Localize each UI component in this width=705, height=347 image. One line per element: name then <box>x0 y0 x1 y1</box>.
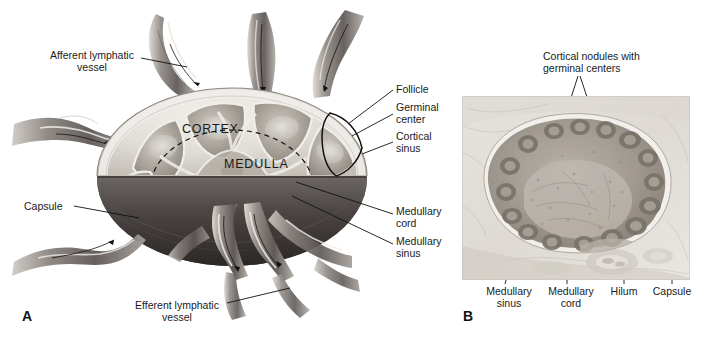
micrograph-image <box>462 96 690 280</box>
efferent-vessel-left <box>12 234 146 276</box>
panel-b-letter: B <box>463 308 473 324</box>
follicle-callout-outline <box>322 113 362 176</box>
label-b-medullary-sinus: Medullary sinus <box>481 286 537 309</box>
leader-medullary-sinus <box>292 196 393 244</box>
leader-cortical-sinus <box>362 142 393 154</box>
leader-efferent <box>227 288 290 303</box>
panel-a-leader-lines <box>74 58 393 303</box>
label-b-medullary-cord: Medullary cord <box>543 286 599 309</box>
cortex-label: CORTEX <box>182 122 239 136</box>
leader-medullary-cord <box>296 182 393 214</box>
label-cortical-sinus: Cortical sinus <box>396 131 432 154</box>
lymph-node-figure: A B CORTEX MEDULLA Afferent lymphatic ve… <box>0 0 705 347</box>
label-efferent-lymphatic-vessel: Efferent lymphatic vessel <box>124 300 230 323</box>
leader-follicle <box>348 90 393 124</box>
label-capsule: Capsule <box>24 201 63 213</box>
label-medullary-cord: Medullary cord <box>396 206 442 229</box>
afferent-vessel-top-right <box>313 10 364 98</box>
leader-afferent <box>141 58 187 67</box>
medulla-boundary-dashed <box>150 130 314 250</box>
afferent-vessel-top-left <box>149 14 200 97</box>
afferent-vessel-left <box>12 116 138 151</box>
label-b-capsule: Capsule <box>646 286 698 298</box>
lymph-node-micrograph <box>462 96 690 280</box>
label-medullary-sinus: Medullary sinus <box>396 236 442 259</box>
node-capsule-body <box>97 90 367 266</box>
label-follicle: Follicle <box>396 84 429 96</box>
label-afferent-lymphatic-vessel: Afferent lymphatic vessel <box>40 50 144 73</box>
label-cortical-nodules-with-germinal-centers: Cortical nodules with germinal centers <box>543 51 703 74</box>
panel-a-letter: A <box>22 308 32 324</box>
afferent-vessel-top-middle <box>247 12 275 98</box>
label-b-hilum: Hilum <box>600 286 648 298</box>
leader-germinal-center <box>352 114 393 136</box>
leader-capsule <box>74 206 139 218</box>
medulla-label: MEDULLA <box>224 157 289 171</box>
label-germinal-center: Germinal center <box>396 102 439 125</box>
